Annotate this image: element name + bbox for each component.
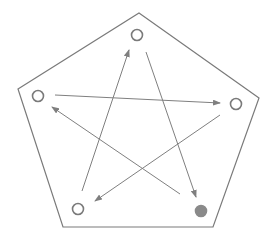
pentagon-star-diagram (0, 0, 270, 239)
edge-bottom-left-to-top (82, 50, 129, 191)
edge-top-to-bottom-right (146, 52, 196, 197)
node-top (132, 30, 143, 41)
node-bottom-right-filled (196, 206, 207, 217)
edge-left-to-right (55, 95, 220, 103)
pentagon-boundary (18, 13, 259, 227)
edge-right-to-bottom-left (95, 115, 220, 201)
node-right (231, 99, 242, 110)
edges-group (52, 50, 220, 201)
nodes-group (33, 30, 242, 217)
node-bottom-left (73, 204, 84, 215)
node-left (33, 91, 44, 102)
edge-bottom-right-to-left (52, 107, 180, 194)
